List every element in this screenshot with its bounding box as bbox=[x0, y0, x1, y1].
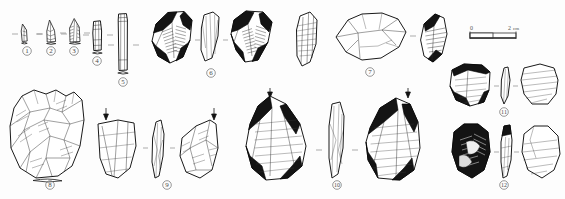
artifact-9: 9 bbox=[98, 108, 218, 189]
orientation-arrow-10b bbox=[406, 88, 411, 98]
scale-bar: 0 2 cm bbox=[470, 25, 519, 39]
scale-max-label: 2 bbox=[508, 25, 511, 31]
artifact-7: 7 bbox=[336, 13, 416, 76]
artifact-label-11: 11 bbox=[501, 109, 507, 115]
artifact-2: 2 bbox=[36, 20, 67, 55]
artifact-1: 1 bbox=[12, 24, 43, 55]
artifact-12: 12 bbox=[452, 124, 560, 189]
orientation-arrow-9b bbox=[212, 108, 217, 120]
orientation-arrow-9a bbox=[104, 108, 109, 120]
artifact-7-extra-view bbox=[421, 14, 447, 62]
artifact-label-5: 5 bbox=[121, 78, 125, 86]
artifact-6-extra-view bbox=[297, 12, 318, 66]
artifact-10: 10 bbox=[246, 88, 420, 189]
artifact-3: 3 bbox=[60, 19, 90, 56]
scale-min-label: 0 bbox=[470, 25, 473, 31]
artifact-label-3: 3 bbox=[72, 47, 76, 55]
artifact-label-6: 6 bbox=[209, 69, 213, 77]
artifact-plate: 1 2 3 bbox=[0, 0, 565, 199]
artifact-5: 5 bbox=[108, 14, 139, 87]
artifact-label-12: 12 bbox=[501, 182, 507, 188]
artifact-8: 8 bbox=[10, 90, 84, 189]
artifact-label-2: 2 bbox=[49, 47, 53, 55]
artifact-label-7: 7 bbox=[368, 68, 372, 76]
scale-unit-label: cm bbox=[513, 26, 519, 31]
artifact-label-4: 4 bbox=[95, 57, 99, 65]
artifact-11: 11 bbox=[450, 64, 558, 116]
artifact-label-9: 9 bbox=[165, 181, 169, 189]
artifact-label-8: 8 bbox=[48, 181, 52, 189]
artifact-label-10: 10 bbox=[334, 182, 340, 188]
artifact-6: 6 bbox=[152, 11, 272, 77]
plate-canvas: 1 2 3 bbox=[0, 0, 565, 199]
artifact-4: 4 bbox=[83, 21, 113, 66]
artifact-label-1: 1 bbox=[25, 47, 29, 55]
